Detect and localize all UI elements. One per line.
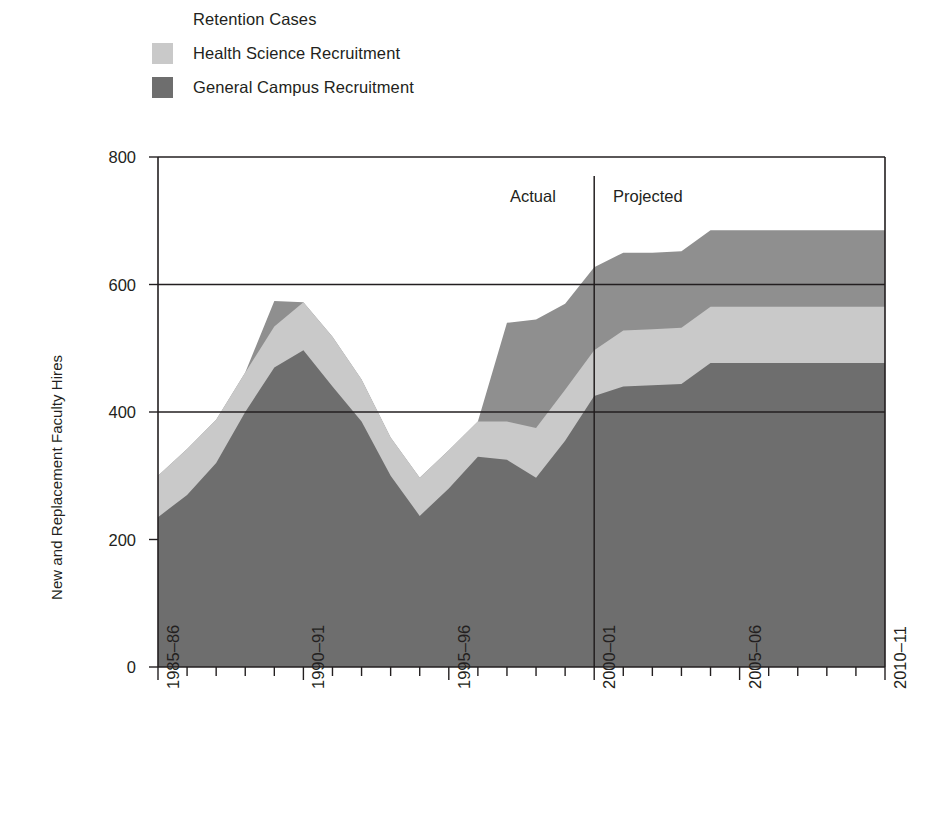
y-tick-label-400: 400 bbox=[76, 404, 136, 421]
stacked-areas bbox=[158, 230, 885, 667]
annotation-actual: Actual bbox=[510, 188, 556, 205]
x-tick-label-2000–01: 2000–01 bbox=[601, 625, 618, 689]
y-tick-label-600: 600 bbox=[76, 277, 136, 294]
x-tick-label-2005–06: 2005–06 bbox=[747, 625, 764, 689]
annotation-projected: Projected bbox=[613, 188, 683, 205]
y-tick-label-800: 800 bbox=[76, 149, 136, 166]
plot-area bbox=[0, 0, 927, 823]
y-tick-label-0: 0 bbox=[76, 659, 136, 676]
chart-page: Retention Cases Health Science Recruitme… bbox=[0, 0, 927, 823]
x-tick-label-1985–86: 1985–86 bbox=[165, 625, 182, 689]
x-tick-label-2010–11: 2010–11 bbox=[892, 626, 909, 689]
x-tick-label-1990–91: 1990–91 bbox=[310, 625, 327, 689]
area-chart-svg bbox=[0, 0, 927, 823]
y-tick-label-200: 200 bbox=[76, 532, 136, 549]
x-tick-label-1995–96: 1995–96 bbox=[456, 625, 473, 689]
